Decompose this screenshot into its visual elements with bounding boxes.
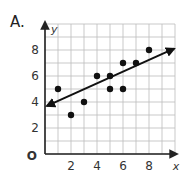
tick-labels: 24682468Oxy: [27, 23, 180, 173]
data-point: [120, 86, 126, 92]
y-axis-label: y: [50, 23, 58, 36]
x-tick-label: 8: [145, 159, 153, 173]
x-tick-label: 2: [67, 159, 75, 173]
data-point: [133, 60, 139, 66]
x-axis-label: x: [172, 160, 180, 173]
data-point: [107, 86, 113, 92]
data-point: [120, 60, 126, 66]
y-tick-label: 4: [31, 95, 39, 109]
data-point: [81, 99, 87, 105]
y-tick-label: 8: [31, 43, 39, 57]
data-point: [107, 73, 113, 79]
data-point: [94, 73, 100, 79]
data-point: [68, 112, 74, 118]
data-points: [55, 47, 152, 118]
y-tick-label: 2: [31, 121, 39, 135]
origin-label: O: [27, 149, 37, 163]
x-tick-label: 4: [93, 159, 101, 173]
y-tick-label: 6: [31, 69, 39, 83]
data-point: [55, 86, 61, 92]
scatter-plot: 24682468Oxy: [0, 0, 185, 173]
data-point: [146, 47, 152, 53]
x-tick-label: 6: [119, 159, 127, 173]
